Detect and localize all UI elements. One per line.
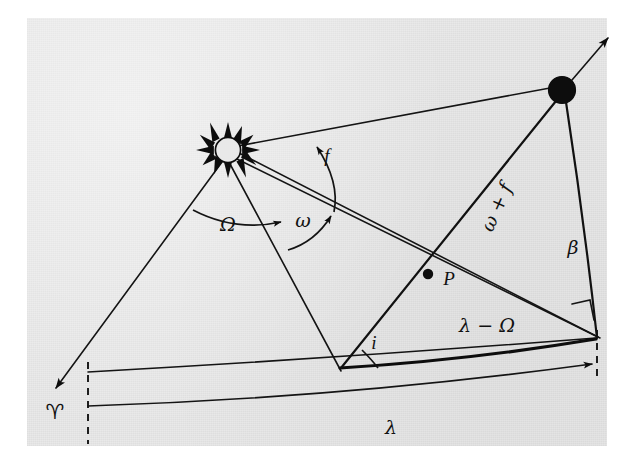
orbital-elements-diagram: Ω ω f ω + f β λ λ − Ω i P ♈ — [0, 0, 634, 472]
label-true-anomaly: f — [324, 145, 332, 166]
sun-to-planet-radius-vector — [238, 88, 550, 146]
line-of-nodes — [230, 164, 341, 371]
planet-icon — [543, 77, 575, 104]
perihelion-direction-ray — [233, 157, 600, 338]
omega-node-angle-arc — [193, 210, 281, 225]
label-vernal-equinox-aries: ♈ — [46, 400, 65, 424]
label-lambda-minus-omega: λ − Ω — [458, 314, 515, 336]
vernal-equinox-ray — [56, 162, 222, 388]
node-to-planet-line — [341, 101, 556, 368]
label-perihelion-point: P — [442, 268, 455, 289]
right-angle-marker — [572, 300, 594, 320]
label-omega-plus-f: ω + f — [476, 177, 518, 235]
label-argument-of-perihelion: ω — [295, 209, 311, 231]
perihelion-point-dot — [423, 269, 433, 279]
label-inclination: i — [371, 332, 376, 353]
label-omega-node: Ω — [219, 213, 236, 235]
label-lambda-longitude: λ — [384, 416, 397, 438]
planet-motion-arrow — [572, 38, 608, 80]
figure-root: Ω ω f ω + f β λ λ − Ω i P ♈ — [0, 0, 634, 472]
sun-reference-line-secondary — [237, 152, 598, 337]
label-beta-latitude: β — [567, 236, 579, 258]
sun-icon — [196, 122, 260, 178]
